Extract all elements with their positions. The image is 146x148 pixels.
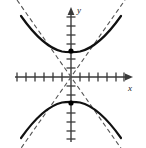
y-axis-arrow (68, 7, 75, 15)
y-axis-label: y (77, 6, 81, 15)
hyperbola-figure: y x (0, 0, 146, 148)
upper-vertex-marker (68, 48, 73, 53)
lower-vertex-marker (68, 100, 73, 105)
x-axis-label: x (128, 84, 132, 93)
hyperbola-plot (0, 0, 146, 148)
x-axis-arrow (125, 74, 133, 81)
